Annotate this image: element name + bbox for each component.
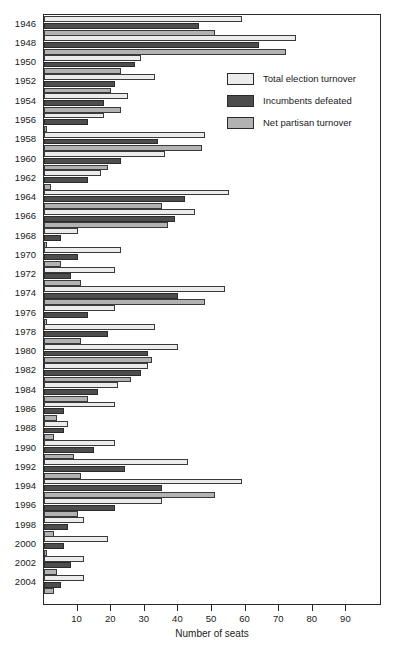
y-axis-label-1982: 1982 — [15, 365, 36, 375]
x-tick-label-10: 10 — [71, 613, 82, 624]
y-axis-label-1996: 1996 — [15, 500, 36, 510]
bar-row — [44, 459, 380, 465]
bar-row — [44, 247, 380, 253]
bar-1992-incumbent — [44, 466, 125, 472]
bar-2000-incumbent — [44, 543, 64, 549]
bar-row — [44, 196, 380, 202]
bar-row — [44, 536, 380, 542]
bar-1960-total — [44, 151, 165, 157]
bar-row — [44, 170, 380, 176]
bar-1956-total — [44, 113, 104, 119]
bar-1996-total — [44, 498, 162, 504]
bar-2004-incumbent — [44, 582, 61, 588]
y-axis-label-1970: 1970 — [15, 250, 36, 260]
y-axis-label-1980: 1980 — [15, 346, 36, 356]
x-tick-label-40: 40 — [172, 613, 183, 624]
bar-row — [44, 254, 380, 260]
bar-1988-total — [44, 421, 68, 427]
bar-1994-incumbent — [44, 485, 162, 491]
legend-item-net: Net partisan turnover — [227, 116, 379, 129]
bar-1948-incumbent — [44, 42, 259, 48]
bar-row — [44, 235, 380, 241]
bar-row — [44, 62, 380, 68]
legend-item-incumbents: Incumbents defeated — [227, 94, 379, 107]
bar-row — [44, 524, 380, 530]
bar-1986-incumbent — [44, 408, 64, 414]
bar-row — [44, 562, 380, 568]
y-axis-label-1990: 1990 — [15, 443, 36, 453]
y-axis-label-1964: 1964 — [15, 192, 36, 202]
bar-1958-incumbent — [44, 139, 158, 145]
bar-row — [44, 382, 380, 388]
x-tick-label-20: 20 — [105, 613, 116, 624]
bar-row — [44, 466, 380, 472]
y-axis-label-1986: 1986 — [15, 404, 36, 414]
bar-row — [44, 293, 380, 299]
x-tick-label-60: 60 — [239, 613, 250, 624]
bar-row — [44, 55, 380, 61]
bar-row — [44, 331, 380, 337]
bar-1946-incumbent — [44, 23, 199, 29]
bar-row — [44, 363, 380, 369]
bar-1980-incumbent — [44, 351, 148, 357]
x-axis-title: Number of seats — [43, 628, 381, 639]
y-axis-label-1962: 1962 — [15, 173, 36, 183]
bar-1964-incumbent — [44, 196, 185, 202]
y-axis-label-1972: 1972 — [15, 269, 36, 279]
bar-row — [44, 139, 380, 145]
bar-1984-total — [44, 382, 118, 388]
y-axis-label-1948: 1948 — [15, 38, 36, 48]
bar-row — [44, 389, 380, 395]
bar-2004-total — [44, 575, 84, 581]
y-axis-label-1950: 1950 — [15, 57, 36, 67]
bar-1970-incumbent — [44, 254, 78, 260]
y-axis-label-1960: 1960 — [15, 154, 36, 164]
bar-1996-incumbent — [44, 505, 115, 511]
legend-swatch-incumbents-icon — [227, 95, 254, 107]
bar-1952-incumbent — [44, 81, 115, 87]
bar-1948-total — [44, 35, 296, 41]
x-tick-40 — [177, 605, 178, 611]
x-tick-label-90: 90 — [340, 613, 351, 624]
bar-row — [44, 151, 380, 157]
x-tick-50 — [211, 605, 212, 611]
y-axis-label-1994: 1994 — [15, 481, 36, 491]
bar-1972-total — [44, 267, 115, 273]
bar-1978-total — [44, 324, 155, 330]
bar-row — [44, 556, 380, 562]
y-axis-label-1958: 1958 — [15, 134, 36, 144]
bar-row — [44, 305, 380, 311]
bar-row — [44, 447, 380, 453]
x-tick-30 — [144, 605, 145, 611]
bar-1978-incumbent — [44, 331, 108, 337]
bar-row — [44, 190, 380, 196]
y-axis-label-1976: 1976 — [15, 308, 36, 318]
bar-1976-total — [44, 305, 115, 311]
y-axis-label-2002: 2002 — [15, 558, 36, 568]
bar-row — [44, 428, 380, 434]
bar-row — [44, 543, 380, 549]
bar-row — [44, 312, 380, 318]
bar-row — [44, 344, 380, 350]
bar-1990-total — [44, 440, 115, 446]
legend-label-incumbents: Incumbents defeated — [263, 95, 352, 106]
y-axis-label-1984: 1984 — [15, 385, 36, 395]
bar-1958-total — [44, 132, 205, 138]
legend-item-total: Total election turnover — [227, 72, 379, 85]
bar-2000-total — [44, 536, 108, 542]
y-axis-label-1988: 1988 — [15, 423, 36, 433]
bar-1974-total — [44, 286, 225, 292]
bar-row — [44, 575, 380, 581]
x-tick-80 — [312, 605, 313, 611]
x-tick-label-30: 30 — [139, 613, 150, 624]
bar-row — [44, 273, 380, 279]
bar-1998-total — [44, 517, 84, 523]
y-axis-label-1946: 1946 — [15, 19, 36, 29]
bar-1982-incumbent — [44, 370, 141, 376]
bar-row — [44, 158, 380, 164]
bar-1998-incumbent — [44, 524, 68, 530]
bar-1954-incumbent — [44, 100, 104, 106]
x-tick-label-80: 80 — [307, 613, 318, 624]
bar-row — [44, 23, 380, 29]
bar-row — [44, 517, 380, 523]
